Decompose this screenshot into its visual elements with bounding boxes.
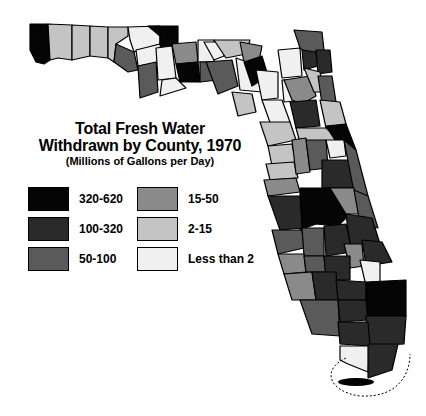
legend-swatch xyxy=(137,217,178,241)
legend-item-50-100: 50-100 xyxy=(28,246,116,272)
county-escambia xyxy=(30,24,50,64)
title-subtitle: (Millions of Gallons per Day) xyxy=(30,155,250,167)
legend-swatch xyxy=(28,187,69,211)
legend-label: 2-15 xyxy=(188,222,212,236)
legend-item-320-620: 320-620 xyxy=(28,186,123,212)
keys-islands xyxy=(338,378,374,386)
map-title-block: Total Fresh Water Withdrawn by County, 1… xyxy=(30,120,250,167)
legend-label: Less than 2 xyxy=(188,252,254,266)
legend-label: 320-620 xyxy=(79,192,123,206)
legend-swatch xyxy=(28,217,69,241)
legend-item-15-50: 15-50 xyxy=(137,186,219,212)
legend-label: 50-100 xyxy=(79,252,116,266)
legend-item-less-than-2: Less than 2 xyxy=(137,246,254,272)
legend-item-100-320: 100-320 xyxy=(28,216,123,242)
legend-swatch xyxy=(137,247,178,271)
legend: 320-620 100-320 50-100 15-50 2-15 Less t… xyxy=(28,186,268,276)
title-line-2: Withdrawn by County, 1970 xyxy=(30,137,250,154)
legend-label: 100-320 xyxy=(79,222,123,236)
legend-swatch xyxy=(28,247,69,271)
legend-swatch xyxy=(137,187,178,211)
legend-item-2-15: 2-15 xyxy=(137,216,212,242)
title-line-1: Total Fresh Water xyxy=(30,120,250,137)
legend-label: 15-50 xyxy=(188,192,219,206)
